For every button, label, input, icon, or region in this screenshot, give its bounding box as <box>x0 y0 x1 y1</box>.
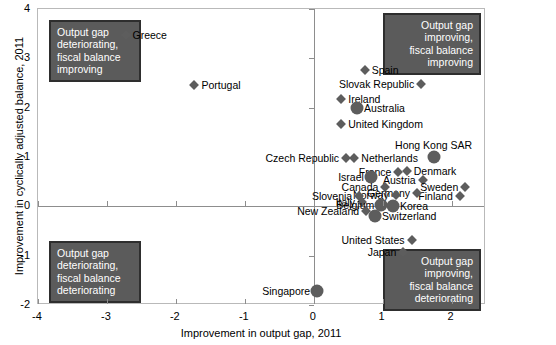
data-point-marker[interactable] <box>427 150 440 163</box>
data-point-label: Singapore <box>262 286 310 297</box>
x-tick-label: -4 <box>32 310 42 322</box>
annotation-line: Output gap <box>391 19 473 31</box>
data-point-marker[interactable] <box>336 94 346 104</box>
data-point-marker[interactable] <box>311 285 324 298</box>
data-point-label: Greece <box>133 30 167 41</box>
x-tick-mark <box>383 299 384 304</box>
annotation-line: deteriorating <box>57 284 133 296</box>
annotation-line: deteriorating, <box>57 259 133 271</box>
data-point-label: Slovak Republic <box>339 79 414 90</box>
data-point-label: Switzerland <box>382 211 436 222</box>
data-point-marker[interactable] <box>360 65 370 75</box>
annotation-line: fiscal balance <box>391 280 473 292</box>
data-point-marker[interactable] <box>416 80 426 90</box>
x-tick-mark <box>38 299 39 304</box>
annotation-line: deteriorating, <box>57 38 133 50</box>
x-tick-mark <box>314 299 315 304</box>
x-tick-label: 2 <box>447 310 453 322</box>
data-point-label: Denmark <box>414 166 457 177</box>
data-point-marker[interactable] <box>349 154 359 164</box>
x-tick-mark-inner <box>176 201 177 206</box>
data-point-marker[interactable] <box>336 119 346 129</box>
y-tick-label: 4 <box>24 2 30 14</box>
data-point-label: Hong Kong SAR <box>395 139 472 150</box>
x-tick-mark <box>176 299 177 304</box>
scatter-chart-figure: -2-101234 Improvement in cyclically adju… <box>0 0 556 345</box>
annotation-line: deteriorating <box>391 292 473 304</box>
x-tick-mark-inner <box>107 201 108 206</box>
y-axis-title: Improvement in cyclically adjusted balan… <box>13 31 25 281</box>
data-point-label: Netherlands <box>361 153 418 164</box>
data-point-label: Australia <box>364 102 405 113</box>
x-tick-mark-inner <box>245 201 246 206</box>
annotation-line: fiscal balance <box>57 51 133 63</box>
x-tick-mark-inner <box>38 201 39 206</box>
annotation-line: improving, <box>391 31 473 43</box>
annotation-line: improving <box>391 56 473 68</box>
data-point-label: Japan <box>368 247 397 258</box>
y-tick-mark <box>309 157 314 158</box>
data-point-marker[interactable] <box>455 192 465 202</box>
y-tick-mark <box>309 108 314 109</box>
annotation-line: Output gap <box>57 247 133 259</box>
data-point-marker[interactable] <box>351 101 364 114</box>
x-tick-label: -1 <box>239 310 249 322</box>
x-tick-label: -2 <box>170 310 180 322</box>
x-axis-title: Improvement in output gap, 2011 <box>37 327 485 339</box>
y-tick-mark <box>309 9 314 10</box>
plot-area: Output gapdeteriorating,fiscal balanceim… <box>37 8 485 304</box>
annotation-top-left: Output gapdeteriorating,fiscal balanceim… <box>49 20 141 82</box>
data-point-marker[interactable] <box>407 235 417 245</box>
data-point-label: Czech Republic <box>266 153 340 164</box>
annotation-line: Output gap <box>391 255 473 267</box>
x-tick-mark <box>245 299 246 304</box>
x-tick-mark <box>452 299 453 304</box>
annotation-line: fiscal balance <box>391 44 473 56</box>
annotation-bottom-left: Output gapdeteriorating,fiscal balancede… <box>49 241 141 303</box>
annotation-line: improving, <box>391 267 473 279</box>
annotation-bottom-right: Output gapimproving,fiscal balancedeteri… <box>383 249 481 311</box>
x-tick-mark <box>107 299 108 304</box>
data-point-label: United States <box>342 235 405 246</box>
data-point-label: New Zealand <box>297 206 359 217</box>
annotation-line: improving <box>57 63 133 75</box>
data-point-label: Spain <box>372 64 399 75</box>
data-point-marker[interactable] <box>460 182 470 192</box>
y-tick-label: -2 <box>20 298 30 310</box>
y-tick-mark <box>309 256 314 257</box>
annotation-line: fiscal balance <box>57 272 133 284</box>
x-tick-mark-inner <box>452 201 453 206</box>
x-tick-mark-inner <box>383 201 384 206</box>
data-point-marker[interactable] <box>190 81 200 91</box>
x-tick-label: 0 <box>310 310 316 322</box>
y-tick-mark <box>309 58 314 59</box>
data-point-label: United Kingdom <box>348 119 423 130</box>
data-point-label: Portugal <box>201 80 240 91</box>
x-tick-label: -3 <box>101 310 111 322</box>
data-point-marker[interactable] <box>369 210 382 223</box>
y-tick-mark <box>309 305 314 306</box>
x-tick-label: 1 <box>379 310 385 322</box>
